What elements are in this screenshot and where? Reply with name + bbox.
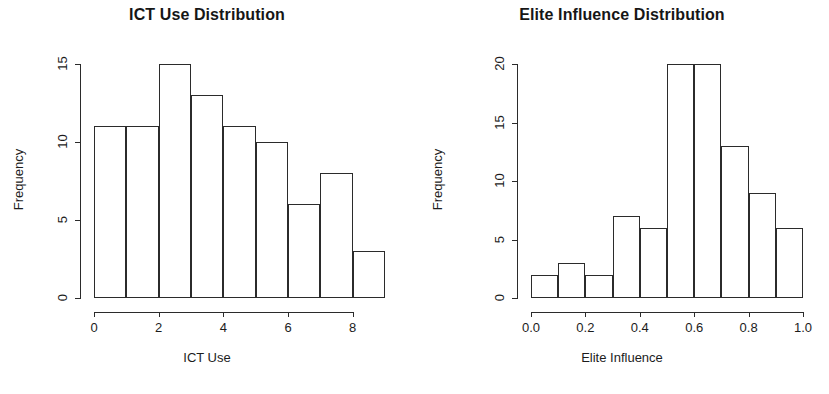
- y-axis-tick: [75, 64, 80, 65]
- y-axis-tick: [512, 181, 517, 182]
- x-axis-tick-label: 0.4: [631, 320, 649, 335]
- histogram-bar: [353, 251, 385, 298]
- x-axis-tick: [694, 312, 695, 317]
- y-axis-label-elite-influence: Frequency: [430, 120, 445, 240]
- histogram-bar: [159, 64, 191, 298]
- x-axis-label-ict-use: ICT Use: [0, 350, 414, 365]
- x-axis-tick: [353, 312, 354, 317]
- y-axis-tick-label: 10: [492, 168, 507, 194]
- histogram-bar: [776, 228, 803, 298]
- histogram-bar: [613, 216, 640, 298]
- panel-ict-use: ICT Use Distribution 05101502468 Frequen…: [0, 0, 414, 394]
- x-axis-tick: [159, 312, 160, 317]
- x-axis-tick: [223, 312, 224, 317]
- histogram-bar: [721, 146, 748, 298]
- plot-ict-use: 05101502468: [0, 0, 414, 394]
- x-axis-tick-label: 0.8: [740, 320, 758, 335]
- x-axis-tick-label: 0: [90, 320, 97, 335]
- y-axis-tick: [75, 220, 80, 221]
- y-axis-tick: [512, 240, 517, 241]
- y-axis-tick-label: 10: [55, 129, 70, 155]
- panel-elite-influence: Elite Influence Distribution 051015200.0…: [415, 0, 829, 394]
- y-axis-tick-label: 0: [492, 285, 507, 311]
- y-axis-tick: [75, 298, 80, 299]
- x-axis-tick-label: 0.0: [522, 320, 540, 335]
- x-axis-tick: [640, 312, 641, 317]
- x-axis-tick-label: 8: [349, 320, 356, 335]
- x-axis-tick-label: 0.6: [685, 320, 703, 335]
- bar-series-elite-influence: [415, 0, 829, 394]
- y-axis-tick-label: 20: [492, 51, 507, 77]
- y-axis-tick: [75, 142, 80, 143]
- y-axis-tick-label: 5: [55, 207, 70, 233]
- x-axis-tick: [94, 312, 95, 317]
- histogram-bar: [223, 126, 255, 298]
- plot-elite-influence: 051015200.00.20.40.60.81.0: [415, 0, 829, 394]
- x-axis-tick: [749, 312, 750, 317]
- y-axis-tick-label: 0: [55, 285, 70, 311]
- histogram-bar: [320, 173, 352, 298]
- histogram-bar: [94, 126, 126, 298]
- histogram-bar: [256, 142, 288, 298]
- x-axis-tick: [803, 312, 804, 317]
- x-axis-tick-label: 4: [220, 320, 227, 335]
- histogram-bar: [191, 95, 223, 298]
- histogram-bar: [531, 275, 558, 298]
- histogram-bar: [585, 275, 612, 298]
- histogram-bar: [749, 193, 776, 298]
- x-axis-tick: [288, 312, 289, 317]
- x-axis-tick-label: 6: [284, 320, 291, 335]
- histogram-bar: [288, 204, 320, 298]
- x-axis-label-elite-influence: Elite Influence: [415, 350, 829, 365]
- y-axis-label-ict-use: Frequency: [11, 120, 26, 240]
- x-axis-tick-label: 2: [155, 320, 162, 335]
- y-axis-tick-label: 15: [55, 51, 70, 77]
- y-axis-tick: [512, 298, 517, 299]
- histogram-bar: [694, 64, 721, 298]
- x-axis-tick-label: 1.0: [794, 320, 812, 335]
- histogram-bar: [640, 228, 667, 298]
- histogram-bar: [558, 263, 585, 298]
- x-axis-line: [531, 312, 804, 313]
- histogram-bar: [126, 126, 158, 298]
- y-axis-tick: [512, 64, 517, 65]
- histogram-bar: [667, 64, 694, 298]
- figure-canvas: ICT Use Distribution 05101502468 Frequen…: [0, 0, 829, 394]
- y-axis-line: [517, 64, 518, 299]
- x-axis-tick: [585, 312, 586, 317]
- y-axis-tick-label: 5: [492, 226, 507, 252]
- x-axis-tick-label: 0.2: [576, 320, 594, 335]
- y-axis-tick: [512, 123, 517, 124]
- x-axis-tick: [531, 312, 532, 317]
- y-axis-line: [80, 64, 81, 299]
- y-axis-tick-label: 15: [492, 109, 507, 135]
